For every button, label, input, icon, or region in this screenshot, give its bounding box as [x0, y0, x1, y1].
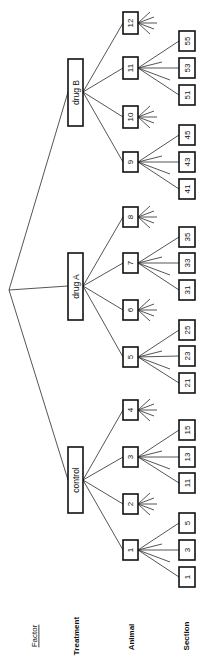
node-label: 1 [126, 547, 135, 552]
animal-node: 1 [123, 540, 138, 560]
root-edges [9, 92, 68, 480]
factor-title: Factor [30, 624, 39, 647]
factor-level-treatment: Treatment [72, 617, 81, 656]
node-label: 25 [183, 325, 192, 334]
section-node: 53 [179, 58, 195, 78]
section-node: 21 [179, 373, 195, 393]
node-label: 9 [126, 159, 135, 164]
animal-node: 4 [123, 400, 138, 420]
node-label: 1 [183, 574, 192, 579]
animal-node: 11 [123, 57, 138, 79]
edge [138, 263, 179, 290]
edge [83, 92, 123, 162]
edge [83, 457, 123, 480]
section-node: 11 [179, 473, 195, 493]
section-node: 3 [179, 540, 195, 560]
edge [138, 357, 179, 383]
node-label: 10 [126, 112, 135, 121]
factor-level-section: Section [182, 621, 191, 650]
edge [138, 523, 179, 550]
edge [83, 263, 123, 286]
edge [83, 480, 123, 504]
node-label: 21 [183, 378, 192, 387]
node-label: 12 [126, 18, 135, 27]
edge-root-drugA [9, 286, 68, 290]
node-label: 51 [183, 90, 192, 99]
section-node: 45 [179, 125, 195, 145]
section-node: 43 [179, 152, 195, 172]
section-node: 51 [179, 85, 195, 105]
treatment-animal-edges [83, 23, 123, 550]
section-nodes: 1 3 5 11 13 15 21 23 25 31 33 35 41 43 4… [179, 31, 195, 587]
factor-level-animal: Animal [127, 624, 136, 651]
node-label: drug A [71, 274, 81, 299]
node-label: control [71, 467, 81, 493]
node-label: 41 [183, 184, 192, 193]
section-node: 15 [179, 420, 195, 440]
section-node: 1 [179, 567, 195, 587]
edge-stub [138, 257, 162, 263]
edge-stub [138, 62, 162, 68]
section-node: 55 [179, 31, 195, 51]
node-label: 6 [126, 307, 135, 312]
edge [83, 68, 123, 92]
node-label: drug B [71, 80, 81, 105]
edge-root-drugB [9, 92, 68, 290]
treatment-node-drug-a: drug A [68, 253, 83, 320]
node-label: 5 [183, 520, 192, 525]
section-node: 35 [179, 227, 195, 247]
edge [138, 356, 179, 357]
node-label: 7 [126, 260, 135, 265]
treatment-node-drug-b: drug B [68, 59, 83, 126]
animal-node: 3 [123, 447, 138, 467]
section-fans [138, 12, 157, 515]
edge [138, 68, 179, 95]
fan-animal-6 [138, 299, 157, 321]
node-label: 15 [183, 425, 192, 434]
node-label: 35 [183, 232, 192, 241]
edge-root-control [9, 290, 68, 480]
edge-stub [138, 156, 162, 162]
node-label: 11 [183, 478, 192, 487]
animal-node: 10 [123, 106, 138, 128]
edge [138, 457, 179, 483]
animal-node: 2 [123, 494, 138, 514]
edge [138, 162, 179, 189]
node-label: 53 [183, 63, 192, 72]
section-node: 25 [179, 320, 195, 340]
edge [138, 550, 179, 577]
animal-node: 8 [123, 207, 138, 227]
node-label: 13 [183, 452, 192, 461]
node-label: 33 [183, 258, 192, 267]
node-label: 23 [183, 351, 192, 360]
node-label: 5 [126, 354, 135, 359]
node-label: 3 [126, 454, 135, 459]
edge [83, 410, 123, 480]
edge [83, 217, 123, 286]
section-node: 41 [179, 179, 195, 199]
edge [138, 135, 179, 162]
nested-design-tree-diagram: control drug A drug B 1 2 3 4 5 6 7 8 9 … [0, 0, 206, 667]
node-label: 55 [183, 36, 192, 45]
animal-node: 5 [123, 347, 138, 367]
section-node: 5 [179, 513, 195, 533]
animal-node: 12 [123, 12, 138, 34]
edge [138, 430, 179, 457]
node-label: 3 [183, 547, 192, 552]
animal-node: 9 [123, 152, 138, 172]
fan-animal-12 [138, 12, 157, 34]
animal-node: 6 [123, 300, 138, 320]
edge [83, 286, 123, 357]
animal-node: 7 [123, 253, 138, 273]
edge [83, 92, 123, 117]
factor-legend: Factor Treatment Animal Section [30, 617, 191, 656]
treatment-node-control: control [68, 447, 83, 513]
node-label: 43 [183, 157, 192, 166]
fan-animal-10 [138, 106, 157, 128]
fan-animal-2 [138, 493, 157, 515]
section-node: 13 [179, 447, 195, 467]
node-label: 8 [126, 214, 135, 219]
node-label: 31 [183, 285, 192, 294]
animal-section-edges [138, 41, 179, 577]
edge-stub [138, 544, 162, 550]
